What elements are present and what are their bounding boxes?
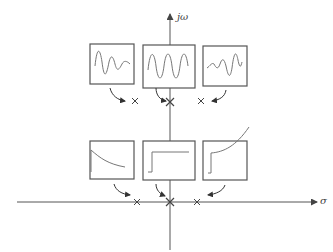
upper-right-box	[203, 46, 247, 86]
sigma-axis-label: σ	[320, 195, 327, 206]
upper-center-box	[143, 45, 195, 88]
lower-left-box	[90, 141, 134, 179]
upper-left-box	[90, 44, 134, 84]
upper-poles	[132, 98, 204, 106]
lower-right-box	[203, 127, 249, 180]
jw-axis-label: jω	[177, 11, 188, 22]
upper-arrows	[110, 88, 226, 101]
lower-center-box	[143, 141, 195, 180]
pole-zero-diagram	[0, 0, 333, 252]
